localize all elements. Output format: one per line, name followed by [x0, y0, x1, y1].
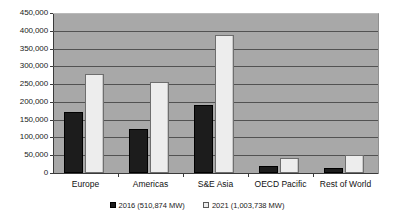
bar-2021: [150, 82, 169, 173]
x-axis-tick-mark: [313, 173, 314, 177]
chart-legend: 2016 (510,874 MW)2021 (1,003,738 MW): [0, 198, 394, 212]
bar-group: [118, 13, 183, 173]
bar-2016: [259, 166, 278, 173]
legend-label: 2021 (1,003,738 MW): [212, 201, 285, 210]
bar-2021: [215, 35, 234, 173]
bar-group: [313, 13, 378, 173]
x-axis-tick-mark: [118, 173, 119, 177]
x-axis-tick-label: S&E Asia: [183, 179, 248, 190]
x-axis-tick-mark: [248, 173, 249, 177]
bar-group: [248, 13, 313, 173]
y-axis-tick-label: 400,000: [2, 27, 48, 35]
legend-item: 2021 (1,003,738 MW): [203, 201, 285, 210]
bar-2016: [129, 129, 148, 173]
y-axis-tick-label: 250,000: [2, 80, 48, 88]
x-axis-tick-label: Rest of World: [313, 179, 378, 190]
legend-label: 2016 (510,874 MW): [119, 201, 185, 210]
bar-2021: [85, 74, 104, 173]
legend-item: 2016 (510,874 MW): [110, 201, 185, 210]
legend-swatch-light: [203, 202, 209, 208]
x-axis: EuropeAmericasS&E AsiaOECD PacificRest o…: [53, 179, 378, 193]
y-axis-tick-label: 200,000: [2, 98, 48, 106]
y-axis-tick-label: 0: [2, 169, 48, 177]
x-axis-tick-label: OECD Pacific: [248, 179, 313, 190]
bar-chart: 450,000400,000350,000300,000250,000200,0…: [0, 0, 394, 218]
bar-group: [53, 13, 118, 173]
bar-group: [183, 13, 248, 173]
bar-2021: [280, 158, 299, 173]
x-axis-tick-label: Europe: [53, 179, 118, 190]
y-axis-tick-label: 100,000: [2, 133, 48, 141]
y-axis-tick-label: 450,000: [2, 9, 48, 17]
y-axis: 450,000400,000350,000300,000250,000200,0…: [0, 0, 48, 218]
x-axis-tick-label: Americas: [118, 179, 183, 190]
bar-2016: [64, 112, 83, 173]
y-axis-tick-label: 350,000: [2, 45, 48, 53]
bar-2016: [194, 105, 213, 173]
x-axis-tick-mark: [183, 173, 184, 177]
bars-layer: [53, 13, 378, 173]
y-axis-tick-label: 300,000: [2, 62, 48, 70]
bar-2016: [324, 168, 343, 173]
y-axis-tick-mark: [50, 173, 53, 174]
y-axis-tick-label: 150,000: [2, 116, 48, 124]
bar-2021: [345, 155, 364, 173]
y-axis-tick-label: 50,000: [2, 151, 48, 159]
legend-swatch-dark: [110, 202, 116, 208]
